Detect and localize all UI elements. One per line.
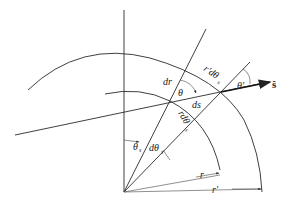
label-r-prime-dtheta-s: r′dθ s <box>201 63 226 86</box>
inner-arc <box>105 91 220 170</box>
dtheta-s-marker <box>163 150 170 160</box>
label-dr: dr <box>163 76 172 87</box>
label-s-hat: ŝ <box>272 78 277 90</box>
svg-text:s: s <box>161 149 164 155</box>
ray-geometry-diagram: dr θ ds r′dθ s rdθ s θ′ ŝ θ s dθ s r r′ <box>0 0 289 202</box>
label-dtheta-s: dθ s <box>149 142 164 155</box>
radial-line-1 <box>124 29 206 192</box>
label-ds: ds <box>192 99 201 110</box>
label-r-prime: r′ <box>212 184 219 195</box>
svg-text:s: s <box>184 128 191 134</box>
label-theta-s: θ s <box>133 141 142 153</box>
label-theta: θ <box>178 87 183 98</box>
label-theta-prime: θ′ <box>237 80 245 91</box>
radius-r-prime-line <box>124 189 262 192</box>
radial-line-2 <box>124 62 250 192</box>
svg-text:s: s <box>216 79 222 86</box>
outer-arc <box>28 53 262 192</box>
s-hat-arrow <box>221 82 270 92</box>
svg-text:r′dθ: r′dθ <box>202 63 221 81</box>
svg-text:rdθ: rdθ <box>176 109 192 126</box>
label-r: r <box>200 169 204 180</box>
svg-text:dθ: dθ <box>149 142 159 153</box>
svg-text:θ: θ <box>133 141 138 152</box>
svg-text:s: s <box>139 147 142 153</box>
